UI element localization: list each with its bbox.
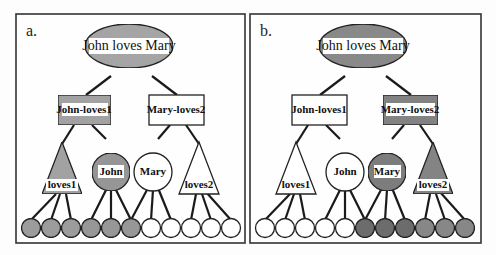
leaf-node: [162, 219, 181, 238]
leaf-node: [396, 219, 415, 238]
mid-node-mary-loves2: Mary-loves2: [381, 95, 440, 125]
panel-a: a.: [16, 14, 245, 243]
low-node-mary: Mary: [368, 153, 406, 191]
mid-node-john-loves1: John-loves1: [291, 95, 347, 125]
svg-text:John loves Mary: John loves Mary: [82, 38, 175, 53]
low-node-mary: Mary: [134, 153, 172, 191]
leaf-node: [376, 219, 395, 238]
leaf-node: [336, 219, 355, 238]
panel-label: b.: [260, 22, 272, 39]
root-node: John loves Mary: [316, 24, 409, 68]
svg-text:Mary-loves2: Mary-loves2: [147, 103, 206, 115]
leaf-node: [416, 219, 435, 238]
leaf-node: [102, 219, 121, 238]
svg-text:John-loves1: John-loves1: [291, 103, 347, 115]
leaf-node: [296, 219, 315, 238]
leaf-node: [456, 219, 475, 238]
leaf-node: [222, 219, 241, 238]
leaf-node: [142, 219, 161, 238]
leaf-node: [42, 219, 61, 238]
svg-text:loves1: loves1: [282, 178, 311, 190]
leaf-node: [256, 219, 275, 238]
leaf-node: [62, 219, 81, 238]
low-node-john: John: [326, 153, 364, 191]
leaf-node: [436, 219, 455, 238]
leaf-node: [356, 219, 375, 238]
leaf-node: [122, 219, 141, 238]
leaf-row: [22, 219, 241, 238]
diagram-canvas: a.: [0, 0, 496, 255]
mid-node-mary-loves2: Mary-loves2: [147, 95, 206, 125]
svg-text:loves2: loves2: [185, 178, 214, 190]
leaf-node: [82, 219, 101, 238]
svg-text:John: John: [333, 165, 356, 177]
svg-text:Mary: Mary: [140, 165, 167, 177]
low-node-john: John: [92, 153, 130, 191]
svg-text:Mary-loves2: Mary-loves2: [381, 103, 440, 115]
leaf-node: [316, 219, 335, 238]
leaf-node: [22, 219, 41, 238]
leaf-node: [202, 219, 221, 238]
svg-text:John: John: [99, 165, 122, 177]
leaf-node: [182, 219, 201, 238]
panel-label: a.: [26, 22, 37, 39]
root-node: John loves Mary: [82, 24, 175, 68]
svg-text:loves2: loves2: [419, 178, 448, 190]
svg-text:John-loves1: John-loves1: [56, 103, 112, 115]
panel-b: b. John loves Mary: [250, 14, 481, 243]
mid-node-john-loves1: John-loves1: [56, 95, 112, 125]
leaf-node: [276, 219, 295, 238]
svg-text:loves1: loves1: [48, 178, 77, 190]
svg-text:Mary: Mary: [374, 165, 401, 177]
svg-text:John loves Mary: John loves Mary: [316, 38, 409, 53]
leaf-row: [256, 219, 475, 238]
